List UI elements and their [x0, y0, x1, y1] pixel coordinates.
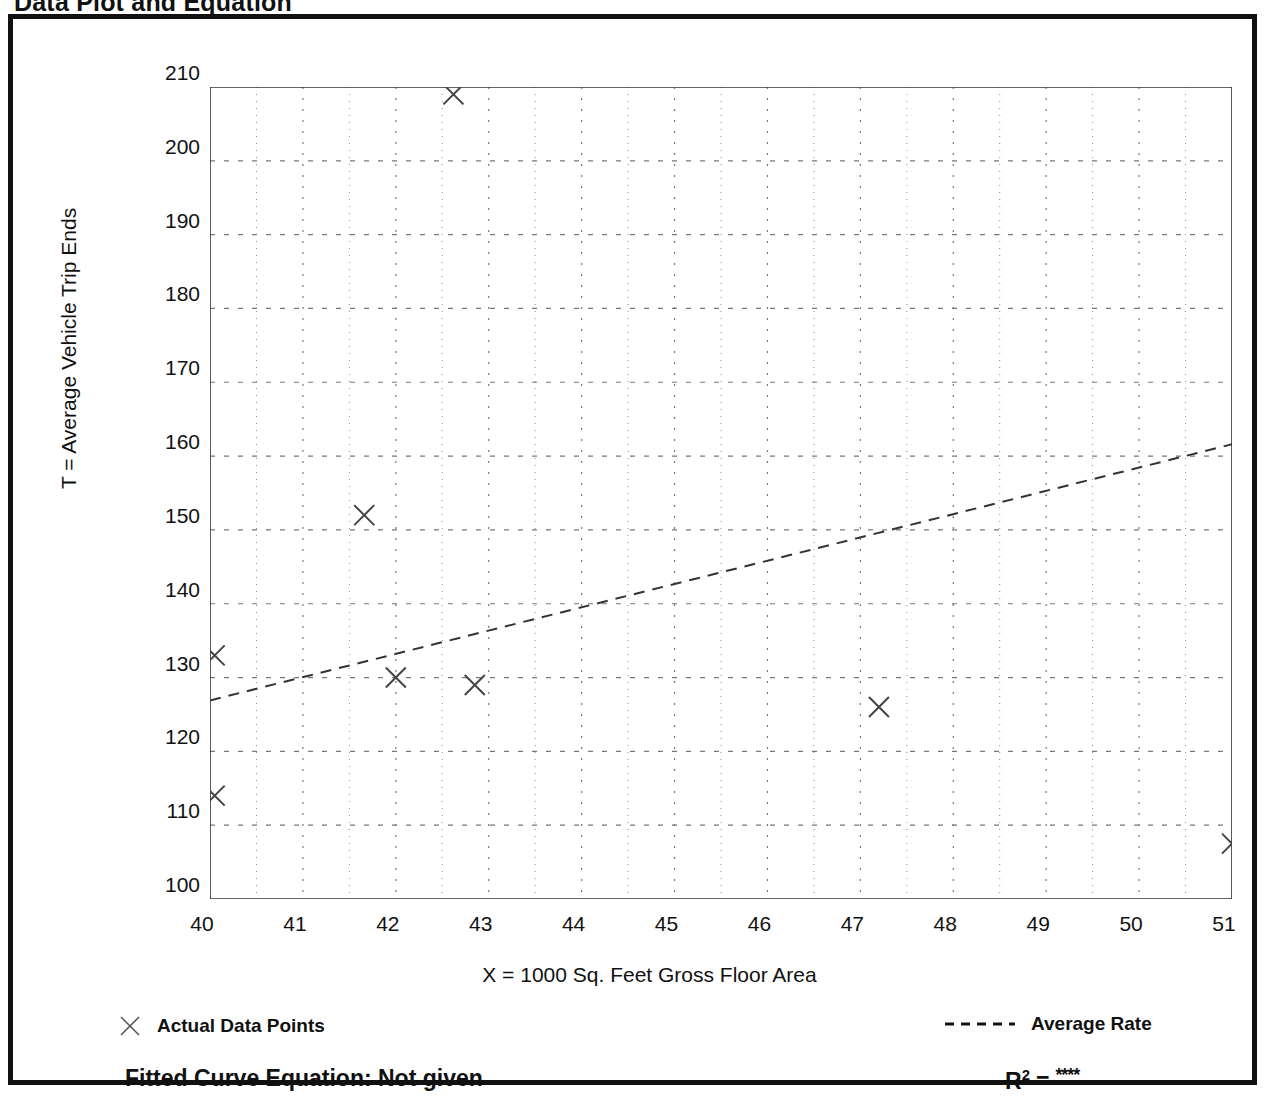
y-axis-tick-label: 140 [148, 578, 200, 602]
legend-actual-data-points: Actual Data Points [117, 1013, 325, 1039]
x-axis-tick-label: 48 [915, 912, 975, 936]
y-axis-tick-label: 170 [148, 356, 200, 380]
x-axis-tick-labels: 404142434445464748495051 [13, 912, 1273, 942]
r-squared-symbol: R [1005, 1068, 1022, 1094]
average-rate-trendline [210, 444, 1232, 700]
x-marker-icon [117, 1013, 143, 1039]
r-squared-value: **** [1055, 1065, 1079, 1085]
data-point-marker [1222, 834, 1232, 854]
x-axis-tick-label: 46 [729, 912, 789, 936]
x-axis-tick-label: 47 [822, 912, 882, 936]
y-axis-tick-label: 210 [148, 61, 200, 85]
legend-actual-data-points-label: Actual Data Points [157, 1015, 325, 1037]
y-axis-tick-label: 180 [148, 282, 200, 306]
y-axis-tick-label: 200 [148, 135, 200, 159]
y-axis-tick-label: 120 [148, 725, 200, 749]
data-point-marker [210, 786, 225, 806]
legend-average-rate: Average Rate [943, 1013, 1152, 1035]
chart-frame: 100110120130140150160170180190200210 404… [8, 14, 1257, 1085]
data-point-marker [354, 505, 374, 525]
x-axis-title: X = 1000 Sq. Feet Gross Floor Area [13, 963, 1273, 987]
y-axis-tick-label: 150 [148, 504, 200, 528]
r-squared-exponent: 2 [1022, 1066, 1030, 1083]
y-axis-tick-label: 160 [148, 430, 200, 454]
x-axis-tick-label: 44 [544, 912, 604, 936]
data-point-marker [869, 697, 889, 717]
x-axis-tick-label: 49 [1008, 912, 1068, 936]
legend-average-rate-label: Average Rate [1031, 1013, 1152, 1035]
data-point-marker [465, 675, 485, 695]
x-axis-tick-label: 45 [637, 912, 697, 936]
r-squared-annotation: R2=**** [1005, 1065, 1079, 1095]
y-axis-title: T = Average Vehicle Trip Ends [57, 208, 81, 489]
data-point-marker [210, 645, 225, 665]
x-axis-tick-label: 50 [1101, 912, 1161, 936]
y-axis-tick-label: 100 [148, 873, 200, 897]
x-axis-tick-label: 43 [451, 912, 511, 936]
y-axis-tick-label: 130 [148, 652, 200, 676]
x-axis-tick-label: 41 [265, 912, 325, 936]
scatter-plot-svg [210, 87, 1232, 899]
fitted-curve-equation: Fitted Curve Equation: Not given [125, 1065, 483, 1092]
y-axis-tick-label: 110 [148, 799, 200, 823]
x-axis-tick-label: 42 [358, 912, 418, 936]
dashed-line-icon [943, 1018, 1017, 1030]
plot-area [210, 87, 1232, 899]
y-axis-tick-label: 190 [148, 209, 200, 233]
x-axis-tick-label: 51 [1194, 912, 1254, 936]
x-axis-tick-label: 40 [172, 912, 232, 936]
data-point-marker [443, 87, 463, 104]
r-squared-equals: = [1036, 1068, 1049, 1094]
